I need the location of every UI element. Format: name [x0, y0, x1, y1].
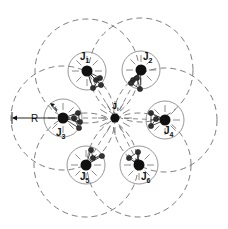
r-label: r [52, 104, 59, 111]
node-label-2: J2 [143, 51, 153, 64]
satellite-node [153, 116, 158, 121]
cluster-head-1 [82, 66, 93, 77]
satellite-node [76, 125, 81, 130]
satellite-node [99, 153, 104, 158]
cluster-head-4 [160, 115, 171, 126]
satellite-node [98, 82, 103, 87]
node-label-3: J3 [56, 127, 66, 140]
cluster-head-3 [58, 113, 69, 124]
center-label: Ji [112, 101, 119, 112]
node-label-6: J6 [141, 171, 151, 184]
node-label-1: J1 [80, 51, 90, 64]
R-label: R [31, 113, 38, 124]
network-diagram: R r J1J2J3J4J5J6Ji [0, 0, 228, 229]
arrow-left-icon [12, 116, 17, 121]
center-node [111, 114, 120, 123]
cluster-head-2 [136, 65, 147, 76]
radius-R-annotation: R [12, 112, 57, 124]
cluster-head-5 [81, 160, 92, 171]
cluster-head-6 [134, 160, 145, 171]
node-label-5: J5 [80, 171, 90, 184]
satellite-node [128, 80, 133, 85]
